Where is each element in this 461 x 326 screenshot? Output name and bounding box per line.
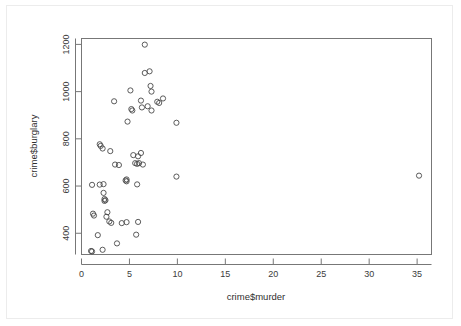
data-point xyxy=(174,120,179,125)
data-point xyxy=(125,119,130,124)
x-tick-label: 15 xyxy=(220,269,230,279)
data-point xyxy=(416,173,421,178)
data-point xyxy=(130,108,135,113)
data-point xyxy=(95,233,100,238)
data-point xyxy=(149,89,154,94)
data-point xyxy=(101,190,106,195)
data-point xyxy=(108,149,113,154)
data-point xyxy=(100,247,105,252)
x-tick-label: 10 xyxy=(172,269,182,279)
x-axis-ticks xyxy=(82,259,418,265)
x-axis-tick-labels: 05101520253035 xyxy=(79,269,422,279)
x-tick-label: 5 xyxy=(127,269,132,279)
data-point xyxy=(138,150,143,155)
y-tick-label: 600 xyxy=(61,179,71,194)
data-point xyxy=(89,182,94,187)
data-point xyxy=(142,42,147,47)
data-point xyxy=(101,182,106,187)
data-point xyxy=(174,174,179,179)
data-point xyxy=(135,154,140,159)
data-point xyxy=(135,182,140,187)
y-tick-label: 1200 xyxy=(61,34,71,54)
x-tick-label: 35 xyxy=(412,269,422,279)
y-axis-title: crime$burglary xyxy=(28,114,39,177)
data-point xyxy=(135,219,140,224)
data-point xyxy=(91,213,96,218)
x-tick-label: 0 xyxy=(79,269,84,279)
data-point xyxy=(116,162,121,167)
data-point xyxy=(148,83,153,88)
data-point xyxy=(139,105,144,110)
figure-card: 40060080010001200 05101520253035 crime$m… xyxy=(6,5,453,319)
data-point xyxy=(124,220,129,225)
screenshot-root: 40060080010001200 05101520253035 crime$m… xyxy=(0,0,461,326)
data-point xyxy=(145,104,150,109)
data-point xyxy=(160,96,165,101)
data-point xyxy=(119,221,124,226)
data-point xyxy=(114,241,119,246)
x-tick-label: 30 xyxy=(364,269,374,279)
chart-canvas: 40060080010001200 05101520253035 crime$m… xyxy=(7,6,454,320)
plot-frame xyxy=(82,39,432,255)
x-tick-label: 25 xyxy=(316,269,326,279)
y-tick-label: 400 xyxy=(61,226,71,241)
scatter-plot: 40060080010001200 05101520253035 crime$m… xyxy=(7,6,454,320)
x-tick-label: 20 xyxy=(268,269,278,279)
x-axis-title: crime$murder xyxy=(227,291,286,302)
data-point xyxy=(128,88,133,93)
y-tick-label: 800 xyxy=(61,131,71,146)
y-tick-label: 1000 xyxy=(61,82,71,102)
data-point xyxy=(134,232,139,237)
y-axis-tick-labels: 40060080010001200 xyxy=(61,34,71,240)
data-point xyxy=(147,69,152,74)
y-axis-ticks xyxy=(76,44,82,233)
data-point xyxy=(112,99,117,104)
data-point xyxy=(138,98,143,103)
data-point xyxy=(149,108,154,113)
data-points xyxy=(88,42,421,254)
